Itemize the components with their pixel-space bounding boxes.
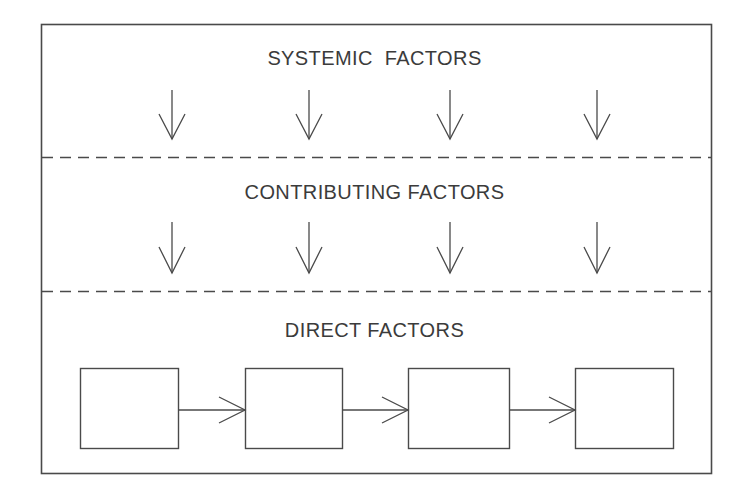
factor-box-2[interactable]	[246, 369, 343, 449]
diagram-graphics	[0, 0, 749, 498]
factor-box-1[interactable]	[81, 369, 179, 449]
factor-box-4[interactable]	[576, 369, 674, 449]
section-label-contributing: CONTRIBUTING FACTORS	[0, 182, 749, 202]
direct-factor-boxes	[81, 369, 674, 449]
systemic-arrow-group	[159, 90, 610, 139]
diagram-canvas: SYSTEMIC FACTORS CONTRIBUTING FACTORS DI…	[0, 0, 749, 498]
connector-arrow-1-2	[178, 397, 245, 423]
contributing-arrow-group	[159, 222, 610, 273]
down-arrow-systemic-1	[159, 90, 185, 139]
down-arrow-systemic-2	[296, 90, 322, 139]
down-arrow-systemic-3	[437, 90, 463, 139]
down-arrow-contributing-3	[437, 222, 463, 273]
connector-arrow-3-4	[509, 397, 575, 423]
down-arrow-contributing-1	[159, 222, 185, 273]
down-arrow-contributing-2	[296, 222, 322, 273]
connector-arrow-2-3	[342, 397, 408, 423]
section-label-direct: DIRECT FACTORS	[0, 320, 749, 340]
down-arrow-systemic-4	[584, 90, 610, 139]
factor-box-3[interactable]	[409, 369, 510, 449]
down-arrow-contributing-4	[584, 222, 610, 273]
direct-factor-connectors	[178, 397, 575, 423]
section-label-systemic: SYSTEMIC FACTORS	[0, 48, 749, 68]
